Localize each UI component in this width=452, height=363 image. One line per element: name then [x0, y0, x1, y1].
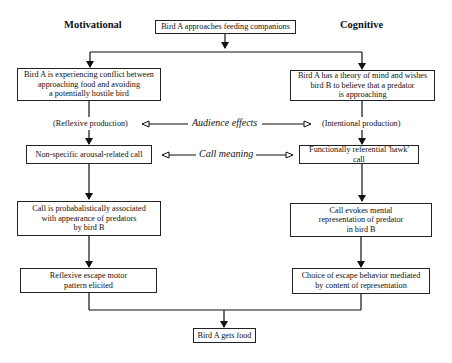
cognitive-receiver-box: Call evokes mental representation of pre… [290, 203, 432, 237]
start-box: Bird A approaches feeding companions [155, 20, 296, 34]
connector-lines [0, 0, 452, 363]
audience-effects-label: Audience effects [189, 117, 260, 128]
motivational-response-box: Reflexive escape motor pattern elicited [20, 268, 157, 293]
heading-motivational: Motivational [64, 19, 122, 30]
cognitive-response-box: Choice of escape behavior mediated by co… [292, 268, 430, 294]
end-box: Bird A gets food [193, 328, 256, 343]
motivational-call-box: Non-specific arousal-related call [26, 145, 152, 164]
cognitive-call-box: Functionally referential 'hawk' call [299, 145, 419, 164]
flow-diagram: Motivational Cognitive Bird A approaches… [0, 0, 452, 363]
motivational-receiver-box: Call is probabalistically associated wit… [17, 201, 161, 236]
motivational-state-box: Bird A is experiencing conflict between … [17, 68, 161, 101]
reflexive-production-label: (Reflexive production) [53, 119, 128, 128]
intentional-production-label: (Intentional production) [322, 119, 400, 128]
heading-cognitive: Cognitive [340, 19, 383, 30]
cognitive-state-box: Bird A has a theory of mind and wishes b… [290, 70, 435, 101]
call-meaning-label: Call meaning [196, 148, 256, 159]
